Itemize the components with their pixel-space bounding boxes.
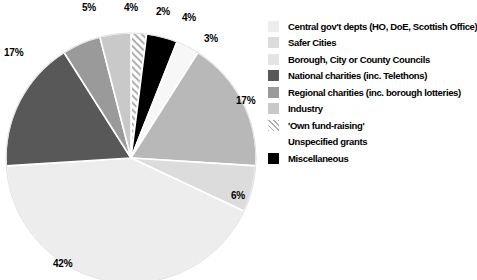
legend-item-label: Industry <box>288 104 323 114</box>
legend-item-label: 'Own fund-raising' <box>288 121 364 131</box>
legend-item-label: Central gov't depts (HO, DoE, Scottish O… <box>288 22 477 32</box>
legend-item[interactable]: Unspecified grants <box>268 134 446 151</box>
chart-legend: Central gov't depts (HO, DoE, Scottish O… <box>268 18 446 167</box>
legend-item[interactable]: Miscellaneous <box>268 150 446 167</box>
pie-percent-label: 4% <box>182 12 196 23</box>
pie-percent-label: 3% <box>204 33 218 44</box>
pie-percent-label: 4% <box>124 2 138 13</box>
pie-chart-svg <box>0 0 262 280</box>
legend-swatch-icon <box>268 103 279 114</box>
legend-swatch-icon <box>268 120 279 131</box>
legend-item[interactable]: Industry <box>268 101 446 118</box>
legend-item[interactable]: National charities (inc. Telethons) <box>268 68 446 85</box>
legend-item-label: National charities (inc. Telethons) <box>288 71 427 81</box>
pie-percent-label: 2% <box>156 6 170 17</box>
legend-item[interactable]: Regional charities (inc. borough lotteri… <box>268 84 446 101</box>
legend-swatch-icon <box>268 54 279 65</box>
legend-item[interactable]: 'Own fund-raising' <box>268 117 446 134</box>
legend-item-label: Safer Cities <box>288 38 336 48</box>
legend-item[interactable]: Borough, City or County Councils <box>268 51 446 68</box>
legend-swatch-icon <box>268 136 279 147</box>
pie-percent-label: 42% <box>53 258 72 269</box>
legend-swatch-icon <box>268 70 279 81</box>
pie-percent-label: 6% <box>231 190 245 201</box>
legend-item-label: Miscellaneous <box>288 154 348 164</box>
pie-percent-label: 17% <box>236 95 255 106</box>
legend-swatch-icon <box>268 21 279 32</box>
legend-swatch-icon <box>268 37 279 48</box>
legend-item-label: Borough, City or County Councils <box>288 55 430 65</box>
legend-swatch-icon <box>268 153 279 164</box>
legend-item[interactable]: Safer Cities <box>268 35 446 52</box>
legend-item-label: Unspecified grants <box>288 137 367 147</box>
pie-chart-area <box>0 0 262 280</box>
legend-item[interactable]: Central gov't depts (HO, DoE, Scottish O… <box>268 18 446 35</box>
legend-swatch-icon <box>268 87 279 98</box>
pie-percent-label: 5% <box>82 2 96 13</box>
legend-item-label: Regional charities (inc. borough lotteri… <box>288 88 461 98</box>
pie-percent-label: 17% <box>4 47 23 58</box>
pie-slices-group <box>6 33 256 280</box>
